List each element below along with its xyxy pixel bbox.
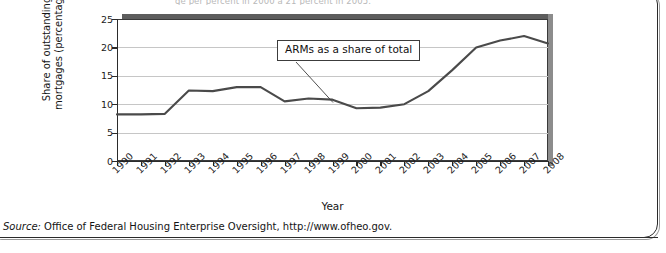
source-text: Office of Federal Housing Enterprise Ove… bbox=[41, 221, 392, 232]
y-tick-label-15: 15 bbox=[95, 71, 113, 81]
x-tick-label-1990: 1990 bbox=[110, 150, 135, 175]
x-axis-title: Year bbox=[117, 200, 548, 212]
gridline-10 bbox=[118, 104, 548, 105]
gridline-15 bbox=[118, 76, 548, 77]
annotation-callout-arms-share: ARMs as a share of total bbox=[277, 40, 420, 61]
source-divider-rule bbox=[0, 237, 658, 238]
y-axis-title: Share of outstanding mortgages (percenta… bbox=[41, 0, 65, 122]
source-note: Source: Office of Federal Housing Enterp… bbox=[3, 221, 392, 232]
y-tick-label-0: 0 bbox=[95, 157, 113, 167]
plot-shadow-right-edge bbox=[548, 14, 553, 166]
y-axis-line bbox=[117, 19, 118, 162]
source-label: Source: bbox=[3, 221, 41, 232]
y-tick-label-5: 5 bbox=[95, 128, 113, 138]
y-tick-label-20: 20 bbox=[95, 43, 113, 53]
y-tick-label-10: 10 bbox=[95, 100, 113, 110]
gridline-5 bbox=[118, 133, 548, 134]
y-tick-label-group: 25 20 15 10 5 0 bbox=[91, 0, 113, 253]
y-tick-label-25: 25 bbox=[95, 15, 113, 25]
figure-chart: 25 20 15 10 5 0 Share of outstanding mor… bbox=[0, 0, 666, 253]
